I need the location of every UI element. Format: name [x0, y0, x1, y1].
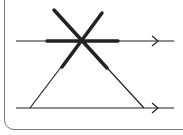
parallel-lines-diagram — [0, 0, 183, 135]
